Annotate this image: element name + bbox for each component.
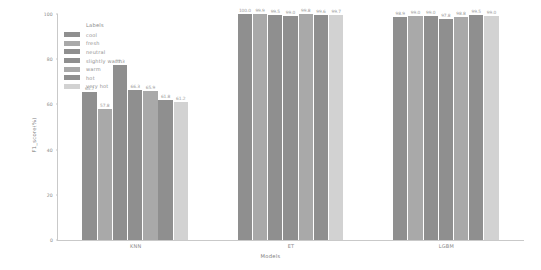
bar: 99.0 xyxy=(424,16,438,240)
bar: 57.8 xyxy=(98,109,112,240)
bar-value-label: 66.3 xyxy=(131,84,140,89)
x-axis-tick-label: ET xyxy=(288,243,295,249)
bar: 97.8 xyxy=(439,19,453,240)
legend-swatch xyxy=(64,49,80,54)
bar: 98.8 xyxy=(454,17,468,240)
legend-item-label: fresh xyxy=(86,40,100,46)
legend-item[interactable]: neutral xyxy=(64,48,122,57)
bar-value-label: 98.8 xyxy=(456,11,465,16)
bar-value-label: 99.0 xyxy=(426,10,435,15)
bar-value-label: 99.0 xyxy=(411,10,420,15)
bar-value-label: 98.9 xyxy=(396,11,405,16)
bar: 98.9 xyxy=(393,17,407,241)
bar: 99.6 xyxy=(314,15,328,240)
y-axis-tick-mark xyxy=(56,14,58,15)
bar: 99.0 xyxy=(484,16,498,240)
legend-item-label: cool xyxy=(86,32,97,38)
bar-value-label: 99.6 xyxy=(316,9,325,14)
bar: 99.9 xyxy=(253,14,267,240)
bar: 100.0 xyxy=(238,14,252,240)
bar: 99.7 xyxy=(329,15,343,240)
y-axis-tick-mark xyxy=(56,240,58,241)
chart-legend: Labels coolfreshneutralslightly warmwarm… xyxy=(64,22,122,91)
bar-value-label: 99.7 xyxy=(331,9,340,14)
bar: 99.8 xyxy=(299,14,313,240)
legend-item-label: hot xyxy=(86,75,95,81)
bar: 99.0 xyxy=(283,16,297,240)
y-axis-label: F1_score(%) xyxy=(31,117,37,152)
legend-item-label: warm xyxy=(86,66,101,72)
legend-swatch xyxy=(64,41,80,46)
x-axis-line xyxy=(57,240,524,241)
y-axis-tick-mark xyxy=(56,149,58,150)
x-axis-tick-label: KNN xyxy=(130,243,141,249)
legend-swatch xyxy=(64,75,80,80)
bar-value-label: 61.2 xyxy=(176,96,185,101)
legend-item-label: neutral xyxy=(86,49,105,55)
bar-value-label: 65.9 xyxy=(146,85,155,90)
legend-swatch xyxy=(64,58,80,63)
legend-item[interactable]: cool xyxy=(64,31,122,40)
bar-value-label: 57.8 xyxy=(100,103,109,108)
y-axis-tick-mark xyxy=(56,59,58,60)
legend-swatch xyxy=(64,67,80,72)
legend-item-label: slightly warm xyxy=(86,58,122,64)
bar-value-label: 99.8 xyxy=(301,8,310,13)
bar: 77.3 xyxy=(113,65,127,240)
bar-value-label: 97.8 xyxy=(441,13,450,18)
bar: 66.3 xyxy=(128,90,142,240)
bar-chart-figure: F1_score(%) Models 02040608010065.757.87… xyxy=(0,0,541,270)
x-axis-label: Models xyxy=(0,253,541,259)
legend-swatch xyxy=(64,84,80,89)
legend-swatch xyxy=(64,32,80,37)
bar: 61.8 xyxy=(158,100,172,240)
bar: 99.5 xyxy=(268,15,282,240)
plot-area: 02040608010065.757.877.366.365.961.861.2… xyxy=(58,14,524,240)
bar: 99.5 xyxy=(469,15,483,240)
bar: 65.9 xyxy=(143,91,157,240)
legend-item[interactable]: hot xyxy=(64,73,122,82)
bar-value-label: 99.0 xyxy=(286,10,295,15)
bar-value-label: 99.5 xyxy=(472,9,481,14)
bar-value-label: 99.9 xyxy=(255,8,264,13)
legend-item-label: very hot xyxy=(86,83,108,89)
legend-item[interactable]: slightly warm xyxy=(64,56,122,65)
legend-entries: coolfreshneutralslightly warmwarmhotvery… xyxy=(64,31,122,91)
bar-value-label: 100.0 xyxy=(239,8,251,13)
bar: 99.0 xyxy=(408,16,422,240)
legend-item[interactable]: fresh xyxy=(64,39,122,48)
x-axis-tick-label: LGBM xyxy=(439,243,454,249)
y-axis-tick-mark xyxy=(56,104,58,105)
legend-item[interactable]: warm xyxy=(64,65,122,74)
legend-item[interactable]: very hot xyxy=(64,82,122,91)
y-axis-tick-mark xyxy=(56,194,58,195)
bar: 61.2 xyxy=(174,102,188,240)
legend-title: Labels xyxy=(86,22,122,28)
bar-value-label: 99.5 xyxy=(271,9,280,14)
bar: 65.7 xyxy=(82,92,96,240)
bar-value-label: 61.8 xyxy=(161,94,170,99)
bar-value-label: 99.0 xyxy=(487,10,496,15)
